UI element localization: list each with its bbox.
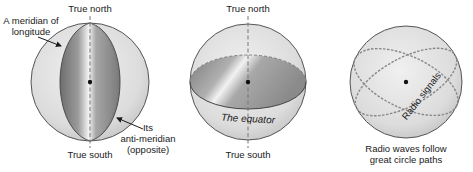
anti-meridian-callout-line1: Its [143,122,153,133]
center-dot-1 [88,80,92,84]
caption-line1: Radio waves follow [365,143,446,154]
panel-great-circle: Radio signals Radio waves follow great c… [344,26,467,165]
center-dot-3 [404,80,408,84]
anti-meridian-callout-line2: anti-meridian [121,133,176,144]
anti-meridian-callout-line3: (opposite) [127,144,169,155]
diagram-canvas: True north True south A meridian of long… [0,0,473,172]
true-south-label-2: True south [225,149,270,160]
meridian-callout-line1: A meridian of [3,15,59,26]
panel-equator: True north True south The equator [190,3,306,160]
panel-meridian: True north True south A meridian of long… [3,3,175,160]
true-north-label-1: True north [68,3,111,14]
meridian-callout-line2: longitude [12,26,51,37]
caption-line2: great circle paths [370,154,443,165]
true-south-label-1: True south [67,149,112,160]
true-north-label-2: True north [226,3,269,14]
center-dot-2 [246,80,250,84]
